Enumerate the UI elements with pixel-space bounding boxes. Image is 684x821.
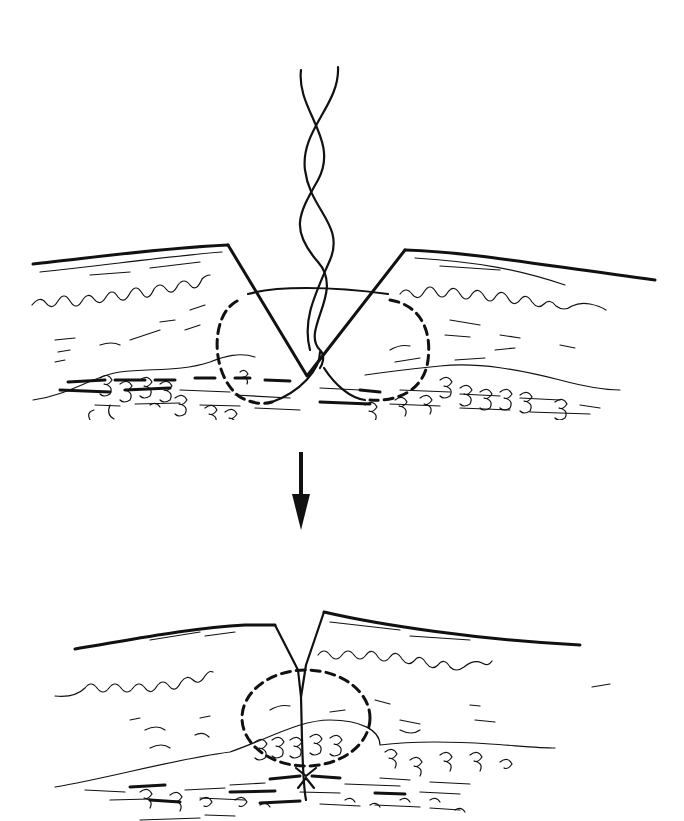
figure-canvas bbox=[0, 0, 684, 821]
fascia-layer-closed bbox=[0, 0, 684, 821]
